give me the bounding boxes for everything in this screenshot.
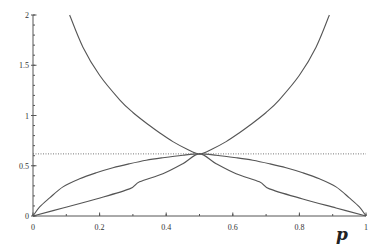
x-tick-label: 1	[364, 223, 368, 232]
ticks	[31, 15, 366, 216]
series-line-0	[70, 15, 330, 154]
chart: 00.20.40.60.8100.511.52 p	[0, 0, 387, 250]
x-axis-label: p	[336, 224, 348, 244]
y-tick-label: 0.5	[19, 162, 29, 171]
axes: 00.20.40.60.8100.511.52	[19, 11, 368, 232]
series-line-1	[33, 154, 366, 216]
series-line-2	[33, 154, 366, 216]
y-tick-label: 1	[25, 112, 29, 121]
plot-lines	[33, 15, 366, 216]
x-tick-label: 0.4	[161, 223, 171, 232]
x-tick-label: 0.8	[294, 223, 304, 232]
y-tick-label: 2	[25, 11, 29, 20]
tick-labels: 00.20.40.60.8100.511.52	[19, 11, 368, 232]
x-tick-label: 0.2	[95, 223, 105, 232]
x-tick-label: 0.6	[228, 223, 238, 232]
y-tick-label: 0	[25, 212, 29, 221]
x-tick-label: 0	[31, 223, 35, 232]
y-tick-label: 1.5	[19, 61, 29, 70]
